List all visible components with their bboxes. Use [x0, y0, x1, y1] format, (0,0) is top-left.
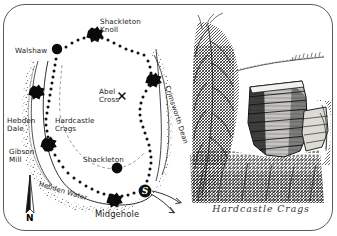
illustration-caption: Hardcastle Crags [188, 203, 334, 214]
map-label-hebden-dale: Hebden Dale [7, 117, 36, 133]
figure-root: S Shackleton Knoll Walshaw Abel Cross Cr… [0, 0, 337, 236]
map-label-abel-cross: Abel Cross [99, 88, 119, 104]
abel-cross-marker [119, 93, 125, 99]
compass-rose [26, 175, 34, 213]
foreground-scrub [188, 145, 334, 207]
start-point-marker: S [139, 185, 152, 198]
svg-text:S: S [142, 186, 148, 196]
illustration-panel: Hardcastle Crags [188, 5, 334, 231]
valley-outline [31, 55, 169, 185]
map-label-midgehole: Midgehole [95, 210, 139, 218]
map-label-shackleton-knoll: Shackleton Knoll [100, 18, 141, 34]
distant-horizon [236, 52, 324, 71]
map-label-shackleton: Shackleton [83, 156, 124, 164]
compass-north-label: N [26, 214, 34, 222]
gibson-mill-dot [42, 140, 54, 152]
walshaw-dot [52, 44, 62, 54]
map-label-hardcastle-crags: Hardcastle Crags [55, 117, 95, 133]
shackleton-dot [112, 163, 123, 174]
map-label-gibson-mill: Gibson Mill [9, 148, 34, 164]
crags-sketch [188, 5, 334, 231]
walk-route-map-panel: S Shackleton Knoll Walshaw Abel Cross Cr… [4, 5, 186, 231]
map-label-walshaw: Walshaw [15, 47, 47, 55]
road-arrows [151, 191, 181, 213]
gritstone-outcrop [246, 79, 328, 161]
